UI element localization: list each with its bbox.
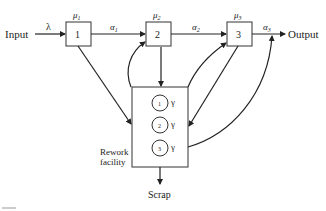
arrow-3-to-rework xyxy=(189,46,238,126)
rework-label-line1: Rework xyxy=(100,147,129,157)
rework-server-2-label: 2 xyxy=(158,123,161,129)
rework-label-line2: facility xyxy=(100,157,126,167)
station-3-service-rate: μ3 xyxy=(233,10,242,21)
arrow-rework-to-output xyxy=(188,36,272,147)
station-1-label: 1 xyxy=(75,29,80,40)
station-2-label: 2 xyxy=(155,29,160,40)
rework-network-diagram: Input λ 1 μ1 α1 2 μ2 α2 3 μ3 α3 Output 1… xyxy=(0,0,326,211)
alpha-3-label: α3 xyxy=(263,22,271,33)
arrival-rate-label: λ xyxy=(46,21,51,32)
figure-caption-fragment xyxy=(2,198,82,204)
alpha-2-label: α2 xyxy=(192,22,200,33)
rework-server-3-rate: γ xyxy=(170,142,175,152)
station-3-label: 3 xyxy=(236,29,241,40)
rework-server-2-rate: γ xyxy=(170,119,175,129)
caption-mark xyxy=(2,207,16,209)
station-2-service-rate: μ2 xyxy=(152,10,161,21)
rework-server-1-label: 1 xyxy=(158,101,161,107)
arrow-rework-to-3 xyxy=(188,43,226,87)
scrap-label: Scrap xyxy=(148,189,171,200)
rework-server-3-label: 3 xyxy=(158,146,161,152)
arrow-1-to-rework xyxy=(78,46,131,124)
input-label: Input xyxy=(5,28,28,40)
arrow-rework-to-2 xyxy=(128,42,145,87)
output-label: Output xyxy=(288,28,319,40)
alpha-1-label: α1 xyxy=(110,22,118,33)
station-1-service-rate: μ1 xyxy=(72,10,81,21)
rework-server-1-rate: γ xyxy=(170,97,175,107)
